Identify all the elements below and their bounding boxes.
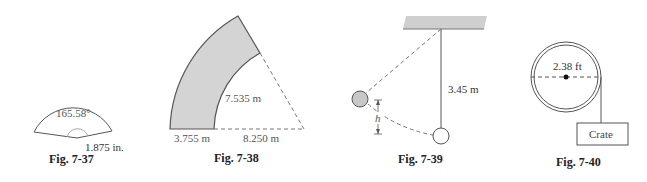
crate-label: Crate xyxy=(589,128,613,140)
height-label: h xyxy=(375,112,381,124)
caption-fig-7-40: Fig. 7-40 xyxy=(556,155,601,169)
figures-canvas: 165.58° 1.875 in. Fig. 7-37 7.535 m 3.75… xyxy=(0,0,647,182)
width-label: 3.755 m xyxy=(174,132,211,144)
diameter-label: 2.38 ft xyxy=(553,60,582,72)
length-label: 3.45 m xyxy=(448,83,479,95)
fig-7-37: 165.58° 1.875 in. Fig. 7-37 xyxy=(34,107,124,166)
angle-label: 165.58° xyxy=(56,107,91,119)
caption-fig-7-37: Fig. 7-37 xyxy=(49,152,94,166)
rest-bob xyxy=(433,128,449,144)
displaced-bob xyxy=(352,91,368,107)
inner-arc-label: 7.535 m xyxy=(225,92,262,104)
dashed-side-right xyxy=(260,53,304,129)
fig-7-40: 2.38 ft Crate Fig. 7-40 xyxy=(531,42,628,169)
shaded-road-sector xyxy=(170,16,260,129)
pulley-center xyxy=(564,75,569,80)
ceiling xyxy=(403,16,487,29)
fig-7-38: 7.535 m 3.755 m 8.250 m Fig. 7-38 xyxy=(170,16,304,165)
fig-7-39: h 3.45 m Fig. 7-39 xyxy=(352,16,487,166)
inner-radius-label: 8.250 m xyxy=(243,132,280,144)
caption-fig-7-38: Fig. 7-38 xyxy=(214,151,259,165)
displaced-string-dashed xyxy=(366,29,441,93)
caption-fig-7-39: Fig. 7-39 xyxy=(398,152,443,166)
